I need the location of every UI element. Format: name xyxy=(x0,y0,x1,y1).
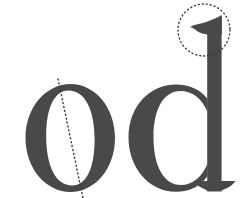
glyph-d-stem xyxy=(207,17,221,182)
letterform-diagram-canvas: Serif lowercase o with a dotted diagonal… xyxy=(0,0,249,198)
glyph-illustration xyxy=(0,0,249,198)
